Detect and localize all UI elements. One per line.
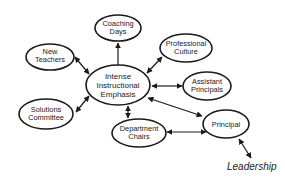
node-solutions-committee: Solutions Committee — [19, 99, 73, 129]
edge-center-principal — [148, 98, 202, 116]
edge-center-culture — [147, 57, 162, 73]
node-label: Principal — [212, 120, 241, 129]
concept-diagram: Coaching Days New Teachers Professional … — [0, 0, 285, 178]
node-intense-instructional-emphasis: Intense Instructional Emphasis — [86, 65, 150, 105]
leadership-label: Leadership — [227, 161, 277, 172]
node-label: Committee — [28, 113, 64, 122]
node-label: Culture — [174, 47, 198, 56]
node-label: Days — [110, 27, 127, 36]
node-label: Principals — [191, 85, 223, 94]
node-label: Intense — [105, 72, 132, 81]
edge-principal-leadership — [239, 139, 251, 158]
node-label: Emphasis — [100, 90, 135, 99]
node-label: Chairs — [128, 132, 150, 141]
node-department-chairs: Department Chairs — [112, 119, 166, 147]
node-label: Instructional — [96, 81, 139, 90]
edge-newteachers-center — [75, 57, 89, 74]
node-assistant-principals: Assistant Principals — [183, 72, 231, 100]
node-professional-culture: Professional Culture — [160, 34, 212, 62]
node-new-teachers: New Teachers — [26, 44, 74, 70]
node-principal: Principal — [203, 110, 249, 138]
node-label: Teachers — [35, 55, 65, 64]
edge-solutions-center — [76, 96, 89, 112]
node-coaching-days: Coaching Days — [95, 15, 141, 41]
